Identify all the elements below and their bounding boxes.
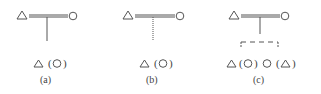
kinship-diagram: ( ) (a) ( ) (b) ( ) ( ) ( xyxy=(0,0,321,94)
circle-icon xyxy=(263,60,271,68)
triangle-icon xyxy=(34,60,43,67)
triangle-icon xyxy=(123,11,133,19)
triangle-icon xyxy=(140,60,149,67)
panel-c: ( ) ( ) (c) xyxy=(227,11,296,86)
triangle-icon xyxy=(229,11,239,19)
panel-a: ( ) (a) xyxy=(17,11,77,86)
open-paren: ( xyxy=(154,57,158,70)
close-paren: ) xyxy=(254,57,258,70)
caption-b: (b) xyxy=(146,74,158,86)
circle-icon xyxy=(53,60,61,68)
caption-a: (a) xyxy=(40,74,51,86)
open-paren: ( xyxy=(48,57,52,70)
open-paren: ( xyxy=(239,57,243,70)
circle-icon xyxy=(159,60,167,68)
circle-icon xyxy=(69,12,77,20)
triangle-icon xyxy=(227,60,236,67)
panel-b: ( ) (b) xyxy=(123,11,184,86)
close-paren: ) xyxy=(292,57,296,70)
circle-icon xyxy=(176,12,184,20)
open-paren: ( xyxy=(276,57,280,70)
triangle-icon xyxy=(281,60,290,67)
caption-c: (c) xyxy=(253,74,264,86)
circle-icon xyxy=(244,60,252,68)
close-paren: ) xyxy=(169,57,173,70)
close-paren: ) xyxy=(63,57,67,70)
triangle-icon xyxy=(17,11,27,19)
circle-icon xyxy=(281,12,289,20)
